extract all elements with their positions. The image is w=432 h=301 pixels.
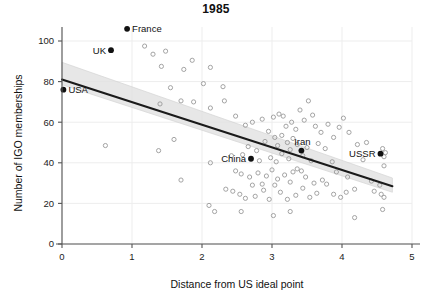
svg-text:China: China <box>221 153 247 164</box>
svg-text:5: 5 <box>409 251 414 262</box>
svg-text:1: 1 <box>129 251 134 262</box>
svg-text:3: 3 <box>269 251 274 262</box>
svg-text:USA: USA <box>68 84 88 95</box>
svg-text:2: 2 <box>199 251 204 262</box>
svg-text:0: 0 <box>49 238 54 249</box>
svg-text:Iran: Iran <box>294 136 310 147</box>
svg-text:USSR: USSR <box>349 148 376 159</box>
svg-text:60: 60 <box>43 117 54 128</box>
svg-text:UK: UK <box>93 45 107 56</box>
y-axis-title: Number of IGO memberships <box>12 74 24 211</box>
svg-text:0: 0 <box>59 251 64 262</box>
svg-text:20: 20 <box>43 198 54 209</box>
svg-text:France: France <box>132 23 162 34</box>
chart-figure: 1985 FranceUKUSAChinaIranUSSR 0204060801… <box>0 0 432 301</box>
svg-text:4: 4 <box>339 251 344 262</box>
svg-text:40: 40 <box>43 157 54 168</box>
svg-text:100: 100 <box>38 35 54 46</box>
scatter-plot: FranceUKUSAChinaIranUSSR 020406080100012… <box>0 0 432 301</box>
regression-line <box>62 80 392 187</box>
svg-text:80: 80 <box>43 76 54 87</box>
x-axis-title: Distance from US ideal point <box>170 278 303 290</box>
